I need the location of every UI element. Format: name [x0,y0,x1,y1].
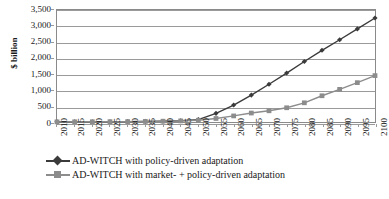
y-axis-tick-labels: 05001,0001,5002,0002,5003,0003,500 [6,4,54,128]
x-axis-tick-mark [74,124,75,127]
x-axis-tick-mark [198,124,199,127]
data-point-square [355,80,360,85]
legend-label-series2: AD-WITCH with market- + policy-driven ad… [72,169,285,181]
x-axis-tick-label: 2020 [95,118,104,136]
legend-item-series1: AD-WITCH with policy-driven adaptation [0,154,382,168]
y-axis-tick-mark [51,74,54,75]
series-group [55,73,378,124]
x-axis-tick-label: 2080 [308,118,317,136]
data-point-square [196,118,201,123]
x-axis-tick-mark [180,124,181,127]
series-line [57,18,375,122]
legend-item-series2: AD-WITCH with market- + policy-driven ad… [0,168,382,182]
x-axis-tick-mark [109,124,110,127]
y-axis-tick-label: 3,500 [31,5,51,14]
x-axis-tick-label: 2050 [202,118,211,136]
y-axis-tick-mark [51,42,54,43]
data-point-square [320,93,325,98]
data-point-square [267,108,272,113]
x-axis-tick-mark [92,124,93,127]
x-axis-tick-mark [323,124,324,127]
x-axis-tick-label: 2025 [113,118,122,136]
x-axis-tick-mark [287,124,288,127]
data-point-square [284,105,289,110]
legend-marker-diamond-icon [46,155,70,167]
y-axis-tick-mark [51,107,54,108]
x-axis-tick-mark [269,124,270,127]
x-axis-tick-mark [163,124,164,127]
x-axis-tick-label: 2055 [220,118,229,136]
x-axis-tick-mark [252,124,253,127]
x-axis-tick-label: 2040 [166,118,175,136]
x-axis-tick-label: 2070 [273,118,282,136]
x-axis-tick-label: 2035 [148,118,157,136]
data-point-square [249,111,254,116]
y-axis-tick-label: 2,500 [31,37,51,46]
y-axis-tick-label: 1,500 [31,70,51,79]
x-axis-tick-mark [145,124,146,127]
x-axis-tick-label: 2090 [344,118,353,136]
x-axis-tick-mark [234,124,235,127]
x-axis-tick-label: 2075 [291,118,300,136]
y-axis-tick-mark [51,9,54,10]
chart-legend: AD-WITCH with policy-driven adaptation A… [0,154,382,182]
y-axis-tick-mark [51,123,54,124]
x-axis-tick-label: 2045 [184,118,193,136]
x-axis-tick-label: 2095 [362,118,371,136]
y-axis-tick-label: 1,000 [31,86,51,95]
data-point-square [337,87,342,92]
y-axis-tick-label: 500 [38,102,52,111]
data-point-square [214,116,219,121]
x-axis-tick-label: 2100 [380,118,389,136]
x-axis-tick-mark [340,124,341,127]
data-point-square [373,73,378,78]
y-axis-tick-mark [51,58,54,59]
x-axis-tick-label: 2010 [60,118,69,136]
y-axis-tick-label: 3,000 [31,21,51,30]
legend-marker-square-icon [46,169,70,181]
x-axis-tick-label: 2015 [77,118,86,136]
series-plot [57,10,375,122]
x-axis-tick-label: 2060 [237,118,246,136]
x-axis-tick-mark [376,124,377,127]
figure-caption [4,186,378,199]
x-axis-tick-mark [56,124,57,127]
plot-area [56,9,376,123]
legend-label-series1: AD-WITCH with policy-driven adaptation [72,155,243,167]
x-axis-tick-mark [305,124,306,127]
data-point-diamond [213,111,218,116]
series-group [54,15,377,124]
x-axis-tick-label: 2030 [131,118,140,136]
y-axis-tick-label: 2,000 [31,53,51,62]
x-axis-tick-mark [127,124,128,127]
x-axis-tick-mark [216,124,217,127]
y-axis-tick-mark [51,25,54,26]
data-point-square [302,100,307,105]
y-axis-tick-mark [51,90,54,91]
x-axis-tick-mark [358,124,359,127]
x-axis-tick-label: 2065 [255,118,264,136]
x-axis-tick-labels: 2010201520202025203020352040204520502055… [56,124,376,156]
x-axis-tick-label: 2085 [326,118,335,136]
